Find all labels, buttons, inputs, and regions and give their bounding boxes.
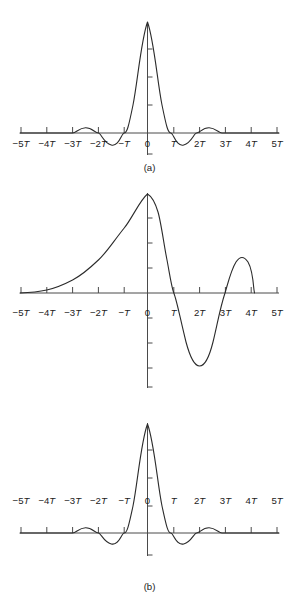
x-tick-label-c-3: −2T (84, 495, 112, 506)
curve-c (20, 424, 279, 544)
x-tick-label-c-6: T (160, 495, 188, 506)
y-ticks-b (148, 218, 153, 387)
x-tick-label-a-3: −2T (84, 138, 112, 149)
x-tick-label-b-10: 5T (263, 307, 291, 318)
x-tick-label-c-9: 4T (237, 495, 265, 506)
x-tick-label-a-5: 0 (134, 138, 162, 149)
figure-panel-a: (a) (0, 0, 299, 190)
x-tick-label-c-5: 0 (134, 495, 162, 506)
caption-a: (a) (0, 162, 299, 173)
x-tick-label-a-2: −3T (59, 138, 87, 149)
x-tick-label-b-5: 0 (134, 307, 162, 318)
curve-b (20, 194, 255, 366)
x-tick-label-a-7: 2T (186, 138, 214, 149)
x-tick-label-b-1: −4T (33, 307, 61, 318)
x-tick-label-c-7: 2T (186, 495, 214, 506)
x-ticks-a (21, 127, 277, 133)
x-tick-label-c-0: −5T (7, 495, 35, 506)
chart-a (0, 0, 299, 160)
x-tick-label-c-8: 3T (211, 495, 239, 506)
x-tick-label-a-6: T (160, 138, 188, 149)
x-ticks-b (21, 287, 277, 293)
curve-a (20, 22, 279, 145)
x-tick-label-b-2: −3T (59, 307, 87, 318)
x-tick-label-b-0: −5T (7, 307, 35, 318)
x-tick-label-a-1: −4T (33, 138, 61, 149)
x-tick-label-b-6: T (160, 307, 188, 318)
x-tick-label-a-8: 3T (211, 138, 239, 149)
figure-panel-b: (b) (0, 190, 299, 418)
x-tick-label-a-10: 5T (263, 138, 291, 149)
figure-panel-c: (c) (0, 418, 299, 616)
x-tick-label-a-0: −5T (7, 138, 35, 149)
x-tick-label-c-10: 5T (263, 495, 291, 506)
x-tick-label-b-7: 2T (186, 307, 214, 318)
x-tick-label-b-9: 4T (237, 307, 265, 318)
x-tick-label-b-8: 3T (211, 307, 239, 318)
x-tick-label-a-9: 4T (237, 138, 265, 149)
x-ticks-c (21, 527, 277, 533)
x-tick-label-b-3: −2T (84, 307, 112, 318)
chart-b (0, 190, 299, 390)
x-tick-label-c-2: −3T (59, 495, 87, 506)
x-tick-label-c-1: −4T (33, 495, 61, 506)
